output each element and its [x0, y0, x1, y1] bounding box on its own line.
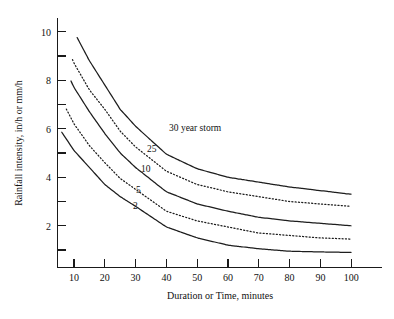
x-tick-labels: 10 20 30 40 50 60 70 80 90 100: [69, 272, 359, 283]
rainfall-intensity-duration-chart: 2 4 6 8 10 10 20 30 40 50 60 70: [0, 0, 394, 319]
y-tick-marks: [58, 32, 67, 250]
x-tick-label-30: 30: [131, 272, 141, 283]
y-tick-label-2: 2: [46, 221, 51, 232]
chart-plot-area: 2 4 6 8 10 10 20 30 40 50 60 70: [0, 0, 394, 319]
curve-label-10: 10: [141, 164, 151, 174]
x-tick-label-80: 80: [285, 272, 295, 283]
y-tick-labels: 2 4 6 8 10: [41, 27, 51, 232]
curve-2-year-storm: [62, 132, 351, 252]
curve-label-25: 25: [147, 144, 157, 154]
x-tick-label-60: 60: [223, 272, 233, 283]
x-tick-marks: [74, 259, 351, 268]
x-tick-label-50: 50: [192, 272, 202, 283]
x-tick-label-10: 10: [69, 272, 79, 283]
x-tick-label-100: 100: [344, 272, 359, 283]
data-curves: [62, 38, 351, 253]
curve-label-5: 5: [136, 185, 141, 195]
y-axis-title: Rainfall intensity, in/h or mm/h: [13, 80, 24, 206]
x-tick-label-70: 70: [254, 272, 264, 283]
x-tick-label-90: 90: [315, 272, 325, 283]
y-tick-label-4: 4: [46, 172, 51, 183]
x-axis-title: Duration or Time, minutes: [167, 290, 273, 301]
x-tick-label-40: 40: [161, 272, 171, 283]
curve-label-2: 2: [133, 201, 138, 211]
curve-10-year-storm: [71, 81, 351, 226]
y-tick-label-6: 6: [46, 124, 51, 135]
y-tick-label-8: 8: [46, 75, 51, 86]
y-tick-label-10: 10: [41, 27, 51, 38]
curve-25-year-storm: [73, 60, 351, 207]
curve-label-30-year-storm: 30 year storm: [169, 123, 222, 133]
curve-30-year-storm: [77, 38, 351, 195]
x-tick-label-20: 20: [100, 272, 110, 283]
